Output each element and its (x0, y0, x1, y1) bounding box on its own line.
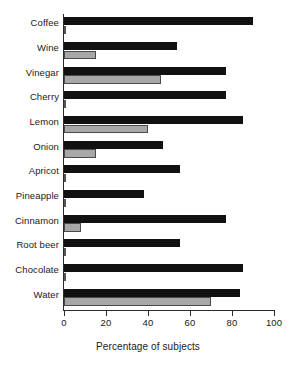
category-label-row: Onion (0, 141, 59, 153)
category-label: Root beer (16, 239, 59, 250)
bar-dark (64, 190, 144, 198)
bar-dark (64, 165, 180, 173)
category-label: Vinegar (26, 67, 59, 78)
bar-dark (64, 17, 253, 25)
category-label-row: Water (0, 289, 59, 301)
category-label-row: Cinnamon (0, 215, 59, 227)
bar-light (64, 75, 161, 83)
category-label: Coffee (31, 17, 59, 28)
x-tick-label-0: 0 (61, 317, 66, 328)
category-label-row: Pineapple (0, 190, 59, 202)
category-label: Wine (37, 42, 59, 53)
bar-dark (64, 42, 177, 50)
category-label-row: Coffee (0, 17, 59, 29)
bar-light (64, 248, 66, 256)
bar-light (64, 223, 81, 231)
bar-light (64, 297, 211, 305)
bar-light (64, 273, 66, 281)
category-label: Onion (33, 141, 59, 152)
category-label-row: Chocolate (0, 264, 59, 276)
bar-dark (64, 289, 240, 297)
bar-dark (64, 91, 226, 99)
x-tick-20 (106, 311, 107, 316)
category-label-row: Lemon (0, 116, 59, 128)
category-label-row: Cherry (0, 91, 59, 103)
category-label: Cinnamon (15, 215, 59, 226)
bar-dark (64, 116, 243, 124)
category-label: Chocolate (15, 264, 59, 275)
x-tick-label-20: 20 (101, 317, 112, 328)
x-tick-100 (274, 311, 275, 316)
category-label: Cherry (30, 91, 59, 102)
x-axis-line (63, 310, 275, 311)
bar-dark (64, 67, 226, 75)
category-label-row: Root beer (0, 239, 59, 251)
x-tick-80 (232, 311, 233, 316)
bar-dark (64, 264, 243, 272)
bar-light (64, 125, 148, 133)
bar-light (64, 100, 66, 108)
x-tick-0 (64, 311, 65, 316)
x-tick-label-60: 60 (185, 317, 196, 328)
bar-chart: 020406080100 CoffeeWineVinegarCherryLemo… (0, 0, 296, 370)
category-label-row: Vinegar (0, 67, 59, 79)
category-label: Apricot (29, 165, 59, 176)
bar-light (64, 149, 96, 157)
category-label: Pineapple (16, 190, 59, 201)
category-label: Water (34, 289, 59, 300)
category-label-row: Apricot (0, 165, 59, 177)
bar-light (64, 174, 66, 182)
bar-light (64, 199, 66, 207)
x-axis-title: Percentage of subjects (0, 341, 296, 352)
x-tick-40 (148, 311, 149, 316)
category-label: Lemon (29, 116, 59, 127)
bar-light (64, 26, 66, 34)
x-tick-label-40: 40 (143, 317, 154, 328)
bar-dark (64, 215, 226, 223)
bar-light (64, 51, 96, 59)
bar-dark (64, 141, 163, 149)
x-tick-label-100: 100 (266, 317, 282, 328)
x-tick-label-80: 80 (227, 317, 238, 328)
x-tick-60 (190, 311, 191, 316)
bar-dark (64, 239, 180, 247)
category-label-row: Wine (0, 42, 59, 54)
